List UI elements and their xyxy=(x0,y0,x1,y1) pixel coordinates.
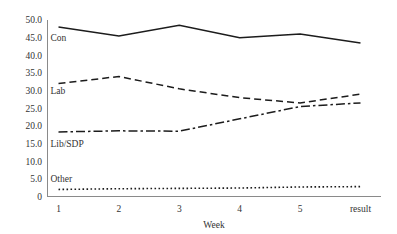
x-tick-label: 3 xyxy=(177,204,182,214)
series-label-lib-sdp: Lib/SDP xyxy=(51,139,84,149)
y-tick-label: 35.0 xyxy=(25,68,42,78)
x-tick-label: result xyxy=(350,204,371,214)
y-tick-label: 20.0 xyxy=(25,121,42,131)
y-tick-label: 0 xyxy=(37,192,42,202)
y-tick-label: 50.0 xyxy=(25,15,42,25)
y-tick-label: 10.0 xyxy=(25,157,42,167)
series-label-lab: Lab xyxy=(51,86,66,96)
line-chart: 05.010.015.020.025.030.035.040.045.050.0… xyxy=(0,0,397,234)
y-tick-label: 30.0 xyxy=(25,86,42,96)
series-label-other: Other xyxy=(51,174,73,184)
x-tick-label: 5 xyxy=(298,204,303,214)
y-tick-label: 45.0 xyxy=(25,33,42,43)
y-tick-label: 5.0 xyxy=(30,174,42,184)
series-label-con: Con xyxy=(51,33,67,43)
y-tick-label: 15.0 xyxy=(25,139,42,149)
y-tick-label: 40.0 xyxy=(25,51,42,61)
x-tick-label: 4 xyxy=(237,204,242,214)
chart-canvas: 05.010.015.020.025.030.035.040.045.050.0… xyxy=(0,0,397,234)
x-axis-title: Week xyxy=(203,220,225,230)
x-tick-label: 1 xyxy=(56,204,61,214)
y-tick-label: 25.0 xyxy=(25,104,42,114)
x-tick-label: 2 xyxy=(117,204,122,214)
